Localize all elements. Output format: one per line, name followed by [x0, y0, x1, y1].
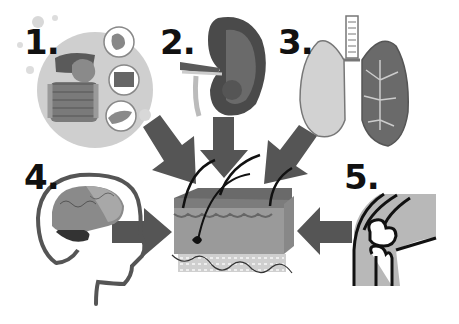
label-number-5: 5.: [344, 160, 379, 194]
arrow-1-icon: [143, 115, 196, 184]
knee-joint-icon: [354, 194, 436, 286]
arrow-2-icon: [200, 117, 248, 178]
label-number-2: 2.: [160, 25, 195, 59]
lungs-icon: [300, 16, 408, 146]
arrow-3-icon: [264, 125, 317, 184]
label-number-3: 3.: [278, 25, 313, 59]
label-number-1: 1.: [24, 25, 59, 59]
label-number-4: 4.: [24, 160, 59, 194]
diagram-canvas: 1. 2. 3. 4. 5.: [0, 0, 459, 324]
diagram-graphics: [0, 0, 459, 324]
arrow-5-icon: [297, 207, 352, 255]
